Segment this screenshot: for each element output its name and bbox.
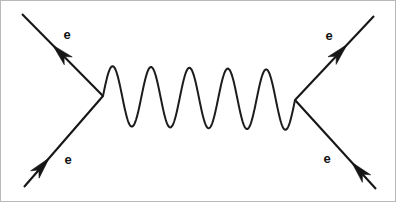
electron-line-incoming-bottom-right [295,100,376,189]
feynman-diagram-canvas: e e e e [0,0,396,202]
electron-line-incoming-bottom-left [24,96,103,187]
feynman-diagram-figure: e e e e [0,0,396,202]
particle-label-incoming-bottom-left: e [64,152,71,167]
figure-border [1,1,396,202]
electron-line-outgoing-top-right [295,16,374,100]
photon-propagator-wave [103,66,295,130]
particle-label-outgoing-top-right: e [325,28,332,43]
particle-label-incoming-bottom-right: e [323,151,330,166]
particle-label-outgoing-top-left: e [63,27,70,42]
